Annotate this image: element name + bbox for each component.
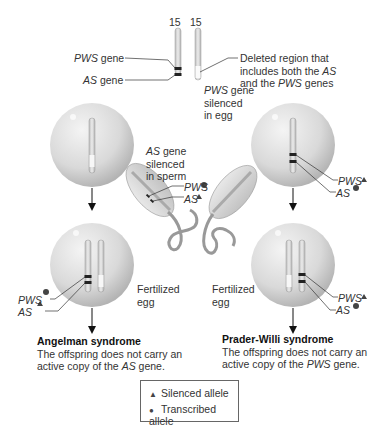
gene-suffix: gene bbox=[98, 52, 124, 64]
pws-gene-label: PWS gene bbox=[74, 52, 124, 65]
chromosome-label-2: 15 bbox=[190, 16, 202, 29]
deleted-region bbox=[196, 66, 201, 78]
text: PWS bbox=[204, 84, 228, 96]
text: silenced bbox=[146, 158, 186, 171]
text: AS bbox=[146, 145, 160, 157]
as-leader-line bbox=[125, 75, 175, 80]
text: AS bbox=[122, 360, 136, 372]
text: Silenced allele bbox=[161, 387, 229, 399]
deleted-region-label: Deleted region that includes both the AS… bbox=[240, 52, 336, 90]
angelman-title: Angelman syndrome bbox=[37, 335, 182, 348]
text: PWS bbox=[278, 77, 302, 89]
text: includes both the bbox=[240, 65, 322, 77]
deleted-line-1: Deleted region that bbox=[240, 52, 336, 65]
text: active copy of the bbox=[222, 358, 307, 370]
text: egg bbox=[137, 296, 180, 309]
chromosome-label-1: 15 bbox=[169, 16, 181, 29]
text: gene bbox=[228, 84, 254, 96]
left-fertilized-label: Fertilized egg bbox=[137, 283, 180, 308]
sperm-silenced-label: AS gene silenced in sperm bbox=[146, 145, 186, 183]
triangle-icon: ▲ bbox=[149, 390, 161, 399]
text: egg bbox=[212, 296, 255, 309]
prader-willi-block: Prader-Willi syndrome The offspring does… bbox=[222, 333, 367, 371]
prader-willi-title: Prader-Willi syndrome bbox=[222, 333, 367, 346]
top-chromosomes bbox=[125, 28, 238, 80]
as-band bbox=[175, 73, 182, 76]
text: PWS bbox=[307, 358, 331, 370]
text: AS bbox=[322, 65, 336, 77]
right-pws-label: PWS bbox=[338, 292, 362, 305]
angelman-block: Angelman syndrome The offspring does not… bbox=[37, 335, 182, 373]
text: silenced bbox=[204, 97, 254, 110]
as-gene-label: AS gene bbox=[83, 74, 123, 87]
sperm-pws-label: PWS bbox=[184, 181, 208, 194]
deleted-line-3: and the PWS genes bbox=[240, 77, 336, 90]
text: Fertilized bbox=[137, 283, 180, 296]
right-as-label: AS bbox=[336, 304, 350, 317]
as-italic: AS bbox=[83, 74, 97, 86]
text: in egg bbox=[204, 109, 254, 122]
legend-silenced: ▲Silenced allele bbox=[149, 387, 229, 399]
right-sperm bbox=[200, 157, 266, 253]
right-fertilized-egg bbox=[251, 223, 338, 330]
deleted-line-2: includes both the AS bbox=[240, 65, 336, 78]
gene-suffix: gene bbox=[97, 74, 123, 86]
egg-as-label: AS bbox=[336, 187, 350, 200]
legend: ▲Silenced allele ●Transcribed allele bbox=[140, 380, 239, 422]
right-fertilized-label: Fertilized egg bbox=[212, 283, 255, 308]
legend-transcribed: ●Transcribed allele bbox=[149, 403, 238, 427]
left-as-label: AS bbox=[18, 306, 32, 319]
circle-icon: ● bbox=[149, 406, 161, 415]
right-top-cell bbox=[251, 103, 338, 207]
left-top-cell bbox=[50, 103, 134, 207]
left-pws-label: PWS bbox=[18, 294, 42, 307]
text: active copy of the bbox=[37, 360, 122, 372]
text: gene bbox=[160, 145, 186, 157]
egg-silenced-label: PWS gene silenced in egg bbox=[204, 84, 254, 122]
pws-leader-line bbox=[125, 58, 175, 68]
pws-band bbox=[175, 67, 182, 70]
text: genes bbox=[302, 77, 334, 89]
text: gene. bbox=[136, 360, 165, 372]
left-pws-transcribed-icon bbox=[43, 289, 49, 295]
pws-italic: PWS bbox=[74, 52, 98, 64]
text: The offspring does not carry an bbox=[222, 346, 367, 359]
left-fertilized-egg bbox=[45, 223, 134, 330]
text: The offspring does not carry an bbox=[37, 348, 182, 361]
sperm-as-label: AS bbox=[184, 193, 198, 206]
text: Fertilized bbox=[212, 283, 255, 296]
egg-pws-label: PWS bbox=[338, 175, 362, 188]
deleted-leader-line bbox=[200, 58, 238, 72]
text: in sperm bbox=[146, 170, 186, 183]
text: gene. bbox=[331, 358, 360, 370]
